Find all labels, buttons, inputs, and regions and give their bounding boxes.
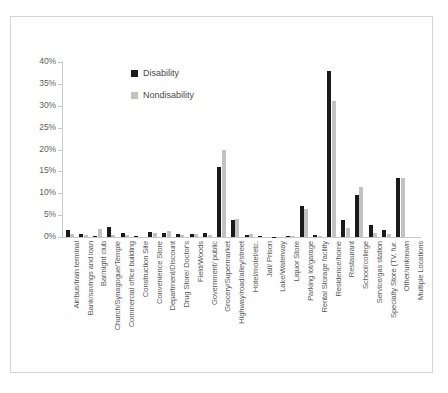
bar-nondisability [98,229,102,237]
y-axis-tick-mark [58,106,62,107]
x-axis-tick-label: Air/bus/train terminal [73,241,81,308]
bar-group [410,62,419,237]
bar-disability [341,220,345,238]
bar-nondisability [359,187,363,237]
bar-group [341,62,350,237]
bar-nondisability [167,231,171,237]
y-axis-tick-mark [58,84,62,85]
bar-disability [327,71,331,237]
x-axis-tick-label: Church/Synagogue/Temple [114,241,122,330]
bar-group [272,62,281,237]
y-axis-tick-label: 30% [4,101,56,110]
y-axis-tick-mark [58,237,62,238]
bar-nondisability [346,228,350,237]
bar-group [66,62,75,237]
bar-disability [203,233,207,237]
bar-group [93,62,102,237]
bar-nondisability [304,209,308,237]
y-axis-tick-label: 10% [4,188,56,197]
bar-disability [79,234,83,238]
chart-legend: Disability Nondisability [131,68,271,112]
x-axis-tick-label: Bar/night club [100,241,108,286]
x-axis-tick-label: Grocery/Supermarket [224,241,232,312]
bar-nondisability [332,101,336,237]
bar-disability [190,234,194,238]
bar-disability [258,236,262,237]
bar-disability [176,234,180,237]
bar-disability [300,206,304,237]
x-axis-tick-label: Restaurant [348,241,356,277]
y-axis-tick-label: 40% [4,57,56,66]
x-axis-tick-label: Hotel/motel/etc. [252,241,260,292]
bar-disability [134,236,138,237]
y-axis-tick-mark [58,150,62,151]
bar-disability [162,233,166,237]
y-axis-tick-label: 15% [4,166,56,175]
y-axis-tick-mark [58,193,62,194]
x-axis-tick-label: Convenience Store [156,241,164,304]
bar-group [327,62,336,237]
x-axis-tick-label: Drug Store/ Doctor's [183,241,191,308]
bar-disability [369,225,373,237]
bar-disability [382,230,386,237]
x-axis-tick-label: Multiple Locations [417,241,425,300]
x-axis-tick-label: Department/Discount [169,241,177,310]
bar-group [107,62,116,237]
bar-disability [107,227,111,237]
y-axis-tick-mark [58,62,62,63]
x-axis-tick-label: Field/Woods [197,241,205,282]
bar-group [382,62,391,237]
y-axis-tick-mark [58,215,62,216]
y-axis-tick-labels: 40%35%30%25%20%15%10%5%0% [0,0,56,393]
bar-group [313,62,322,237]
x-axis-line [62,237,421,238]
bar-disability [217,167,221,237]
y-axis-tick-label: 5% [4,210,56,219]
bar-disability [396,178,400,237]
x-axis-tick-label: Lake/Waterway [279,241,287,292]
bar-group [121,62,130,237]
legend-item-nondisability: Nondisability [131,90,271,100]
bar-group [369,62,378,237]
bar-nondisability [194,234,198,237]
bar-nondisability [235,219,239,237]
bar-nondisability [290,236,294,237]
bar-disability [148,232,152,237]
legend-item-disability: Disability [131,68,271,78]
legend-label-nondisability: Nondisability [143,90,194,100]
x-axis-tick-label: Commercial office building [128,241,136,327]
bar-disability [245,235,249,237]
x-axis-tick-label: Construction Site [142,241,150,297]
bar-group [79,62,88,237]
y-axis-tick-label: 20% [4,145,56,154]
bar-nondisability [208,235,212,237]
y-axis-tick-mark [58,171,62,172]
bar-group [300,62,309,237]
bar-group [286,62,295,237]
x-axis-tick-label: Parking lot/garage [307,241,315,301]
y-axis-tick-label: 25% [4,123,56,132]
x-axis-tick-label: Residence/home [335,241,343,297]
y-axis-tick-mark [58,128,62,129]
bar-nondisability [125,235,129,237]
bar-nondisability [249,234,253,237]
bar-group [355,62,364,237]
x-axis-tick-label: Jail/ Prison [266,241,274,277]
bar-disability [313,235,317,237]
bar-disability [286,236,290,237]
bar-nondisability [401,178,405,238]
x-axis-tick-label: Bank/savings and loan [87,241,95,315]
bar-group [396,62,405,237]
x-axis-tick-label: Rental Storage facility [321,241,329,313]
bar-nondisability [84,235,88,237]
x-axis-tick-label: Other/unknown [403,241,411,291]
x-axis-tick-label: Liquor Store [293,241,301,281]
bar-disability [355,195,359,237]
y-axis-tick-label: 35% [4,79,56,88]
bar-nondisability [153,233,157,237]
x-axis-tick-label: Highway/road/alley/street [238,241,246,324]
legend-swatch-icon-nondisability [131,92,138,99]
bar-nondisability [318,236,322,237]
x-axis-tick-label: School/college [362,241,370,289]
x-axis-tick-label: Specialty Store (TV, fur. [390,241,398,318]
